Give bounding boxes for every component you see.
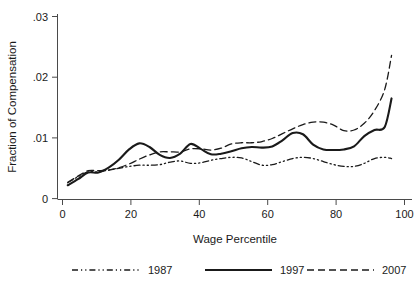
y-axis-title: Fraction of Compensation	[6, 41, 18, 173]
x-tick-label: 40	[193, 208, 205, 220]
legend-label-2007: 2007	[382, 264, 406, 276]
series-group	[68, 55, 392, 185]
x-tick-label: 0	[59, 208, 65, 220]
series-line-1997	[68, 98, 392, 185]
x-axis-ticks	[63, 200, 405, 206]
chart-legend: 198719972007	[72, 264, 406, 276]
x-tick-labels: 0 20 40 60 80 100	[59, 208, 413, 220]
x-tick-label: 100	[395, 208, 413, 220]
x-axis-title: Wage Percentile	[193, 233, 277, 245]
x-tick-label: 60	[262, 208, 274, 220]
y-tick-label: 0	[42, 193, 48, 205]
legend-label-1997: 1997	[280, 264, 304, 276]
y-tick-label: .02	[33, 71, 48, 83]
y-axis-ticks	[52, 17, 58, 199]
x-tick-label: 80	[330, 208, 342, 220]
legend-label-1987: 1987	[148, 264, 172, 276]
y-tick-label: .01	[33, 132, 48, 144]
chart-figure: .03 .02 .01 0 0 20 40 60 80 100 Wage Per…	[0, 0, 420, 290]
line-chart: .03 .02 .01 0 0 20 40 60 80 100 Wage Per…	[0, 0, 420, 290]
x-tick-label: 20	[125, 208, 137, 220]
y-tick-labels: .03 .02 .01 0	[33, 11, 48, 205]
y-tick-label: .03	[33, 11, 48, 23]
